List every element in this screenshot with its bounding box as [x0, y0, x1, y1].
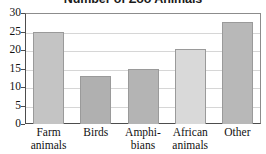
- x-category-line1: Amphi-: [125, 126, 161, 138]
- bar-chart: Number of Zoo Animals 302520151050 Farma…: [0, 0, 266, 154]
- y-tick-label-5: 5: [0, 100, 21, 112]
- y-tick-label-15: 15: [0, 63, 21, 75]
- x-category-line1: African: [173, 126, 208, 138]
- bar-2: [128, 69, 159, 125]
- bar-0: [33, 32, 64, 125]
- x-category-line2: animals: [162, 139, 219, 152]
- x-category-line2: animals: [20, 139, 77, 152]
- y-tick-label-25: 25: [0, 26, 21, 38]
- y-tick-label-20: 20: [0, 44, 21, 56]
- bar-1: [80, 76, 111, 124]
- y-tick-mark-0: [21, 124, 25, 125]
- bar-4: [222, 22, 253, 124]
- y-tick-label-10: 10: [0, 81, 21, 93]
- x-category-line1: Birds: [83, 126, 108, 138]
- chart-title: Number of Zoo Animals: [0, 0, 266, 6]
- x-axis: FarmanimalsBirdsAmphi-biansAfricananimal…: [25, 126, 261, 154]
- bar-3: [175, 49, 206, 124]
- y-tick-label-30: 30: [0, 7, 21, 19]
- x-category-label-4: Other: [209, 126, 266, 139]
- bars-layer: [25, 13, 261, 124]
- x-category-line1: Other: [224, 126, 250, 138]
- x-category-line1: Farm: [36, 126, 60, 138]
- y-axis: 302520151050: [0, 13, 21, 124]
- y-tick-label-0: 0: [0, 118, 21, 130]
